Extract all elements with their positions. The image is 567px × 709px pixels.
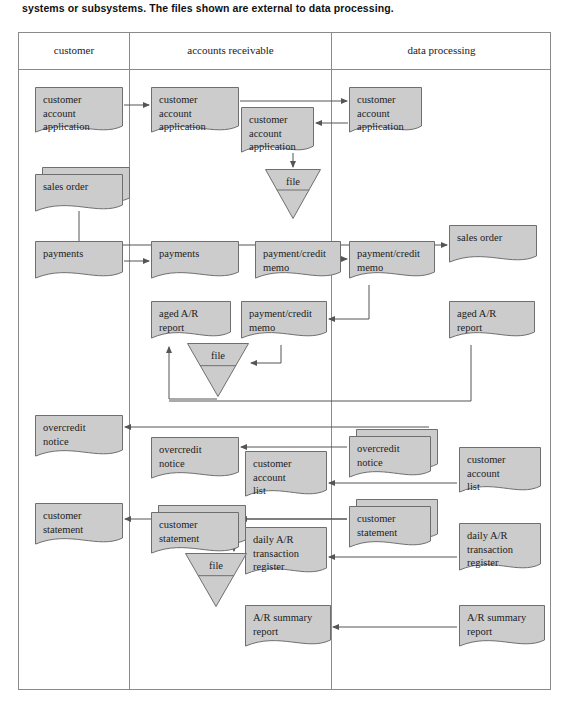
file-node-label: file <box>185 560 247 571</box>
file-node-label: file <box>187 350 249 361</box>
document-node: payments <box>35 241 123 287</box>
file-node: file <box>265 169 321 219</box>
document-node-label: A/R summary report <box>467 611 526 638</box>
edge-sales-order-to-dp <box>79 211 447 245</box>
document-node: payment/credit memo <box>255 241 341 287</box>
document-node-label: daily A/R transaction register <box>253 533 299 574</box>
document-node: overcredit notice <box>151 437 239 487</box>
document-node: payments <box>151 241 239 287</box>
column-header-accounts-receivable: accounts receivable <box>130 44 331 56</box>
document-node: sales order <box>35 167 123 213</box>
document-node-label: aged A/R report <box>159 307 198 334</box>
document-node: customer statement <box>349 499 431 549</box>
document-node-label: customer statement <box>159 518 199 545</box>
document-node: customer account application <box>35 87 123 141</box>
document-node: aged A/R report <box>151 301 231 347</box>
document-node-label: payments <box>43 247 83 261</box>
document-node-label: customer account application <box>159 93 206 134</box>
column-divider-2 <box>331 33 332 689</box>
document-node-label: customer account list <box>253 457 292 498</box>
document-node-label: customer statement <box>357 512 397 539</box>
edge-dp-memo-back-to-ar <box>329 285 369 319</box>
file-node: file <box>187 343 249 397</box>
document-node: overcredit notice <box>349 429 431 479</box>
document-node: payment/credit memo <box>241 301 327 347</box>
document-node-label: payment/credit memo <box>263 247 326 274</box>
file-node-label: file <box>265 176 321 187</box>
document-node: customer account application <box>349 87 422 141</box>
document-node: A/R summary report <box>245 605 331 655</box>
document-node-label: payment/credit memo <box>249 307 312 334</box>
document-node-label: customer account application <box>249 113 296 154</box>
document-node-label: overcredit notice <box>43 421 86 448</box>
column-divider-1 <box>129 33 130 689</box>
document-node: customer statement <box>151 505 239 555</box>
document-node-label: A/R summary report <box>253 611 312 638</box>
document-node-label: customer account application <box>43 93 90 134</box>
document-node-label: daily A/R transaction register <box>467 529 513 570</box>
header-divider <box>19 69 550 70</box>
document-node-label: overcredit notice <box>357 442 400 469</box>
document-node-label: customer account application <box>357 93 404 134</box>
figure-caption: systems or subsystems. The files shown a… <box>22 2 552 14</box>
document-node: customer account application <box>151 87 239 141</box>
document-node: sales order <box>449 225 537 271</box>
document-node-label: aged A/R report <box>457 307 496 334</box>
flowchart-frame: customer accounts receivable data proces… <box>18 32 551 690</box>
document-node: daily A/R transaction register <box>245 527 327 583</box>
document-node: customer statement <box>35 503 123 553</box>
document-node: payment/credit memo <box>349 241 435 287</box>
document-node-label: customer statement <box>43 509 83 536</box>
edge-memo-to-file <box>251 345 281 363</box>
document-node-label: sales order <box>43 180 88 194</box>
document-node: daily A/R transaction register <box>459 523 541 579</box>
document-node-label: overcredit notice <box>159 443 202 470</box>
column-header-customer: customer <box>19 44 129 56</box>
column-header-data-processing: data processing <box>332 44 551 56</box>
document-node: customer account application <box>241 107 314 161</box>
document-node-label: customer account list <box>467 453 506 494</box>
document-node-label: sales order <box>457 231 502 245</box>
document-node-label: payments <box>159 247 199 261</box>
document-node: aged A/R report <box>449 301 535 347</box>
document-node: customer account list <box>459 447 541 501</box>
document-node: customer account list <box>245 451 327 505</box>
document-node: A/R summary report <box>459 605 545 655</box>
file-node: file <box>185 553 247 607</box>
document-node-label: payment/credit memo <box>357 247 420 274</box>
document-node: overcredit notice <box>35 415 123 465</box>
